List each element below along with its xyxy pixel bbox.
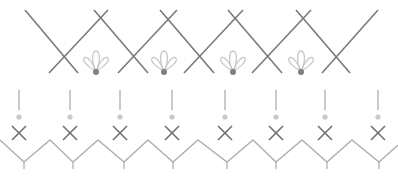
petal: [93, 51, 100, 71]
border-motif: [218, 90, 232, 140]
flower-dot: [93, 69, 99, 75]
small-dot: [16, 114, 21, 119]
flower-icon: [152, 51, 177, 75]
small-dot: [117, 114, 122, 119]
small-dot: [375, 114, 380, 119]
lattice-line: [25, 10, 78, 73]
flower-icon: [84, 51, 109, 75]
small-dot: [322, 114, 327, 119]
small-dot: [169, 114, 174, 119]
bottom-border: [0, 90, 398, 169]
petal: [230, 51, 237, 71]
border-motif: [165, 90, 179, 140]
flower-dot: [230, 69, 236, 75]
flower-icon: [289, 51, 314, 75]
flower-dot: [298, 69, 304, 75]
lattice-line: [252, 10, 311, 73]
small-dot: [273, 114, 278, 119]
flower-dot: [161, 69, 167, 75]
border-motif: [63, 90, 77, 140]
pattern-canvas: [0, 0, 398, 181]
petal: [161, 51, 168, 71]
lattice-line: [322, 10, 378, 73]
small-dot: [222, 114, 227, 119]
border-motif: [269, 90, 283, 140]
border-motif: [113, 90, 127, 140]
small-dot: [67, 114, 72, 119]
flower-icon: [221, 51, 246, 75]
zigzag-line: [0, 140, 398, 162]
top-lattice: [25, 10, 378, 73]
border-motif: [12, 90, 26, 140]
lattice-line: [184, 10, 243, 73]
border-motif: [318, 90, 332, 140]
border-motif: [371, 90, 385, 140]
petal: [298, 51, 305, 71]
lattice-line: [94, 10, 148, 73]
